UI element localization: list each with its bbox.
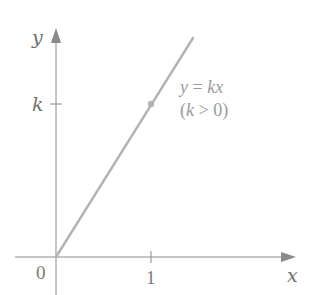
line-y-equals-kx [56, 38, 193, 257]
y-axis-label: y [31, 26, 43, 48]
point-1-k [148, 101, 154, 107]
y-tick-label-k: k [32, 93, 44, 115]
y-axis-arrow-icon [51, 28, 61, 43]
origin-label: 0 [36, 262, 46, 283]
x-axis-label: x [287, 264, 298, 286]
x-tick-label-1: 1 [146, 267, 156, 288]
graph-canvas: y x 0 1 k y = kx (k > 0) [0, 0, 311, 295]
condition-label: (k > 0) [180, 100, 228, 121]
x-axis-arrow-icon [281, 252, 296, 262]
equation-label: y = kx [178, 77, 223, 97]
